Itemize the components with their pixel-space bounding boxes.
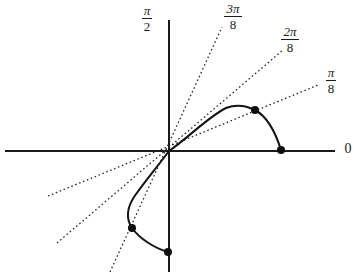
fraction-pi-over-8: π 8: [326, 66, 337, 95]
ray-label-2pi-over-8: 2π 8: [270, 25, 310, 54]
axis-label-pi-over-2: π 2: [130, 4, 164, 33]
fraction-3pi-over-8: 3π 8: [224, 2, 241, 31]
curve-point-lower-left: [128, 224, 136, 232]
curve-point-on-y-axis: [164, 248, 172, 256]
fraction-denominator: 8: [326, 81, 337, 95]
polar-angle-figure: π 2 3π 8 2π 8 π 8 0: [0, 0, 357, 272]
curve-point-upper-right: [251, 106, 259, 114]
fraction-denominator: 2: [142, 19, 153, 33]
axis-label-zero: 0: [341, 142, 355, 156]
ray-label-3pi-over-8: 3π 8: [213, 2, 253, 31]
fraction-numerator: 2π: [281, 25, 298, 40]
fraction-numerator: π: [326, 66, 337, 81]
solid-curve-upper-branch: [169, 106, 281, 151]
fraction-denominator: 8: [224, 17, 241, 31]
fraction-numerator: π: [142, 4, 153, 19]
solid-curve-lower-branch: [128, 151, 169, 252]
ray-label-pi-over-8: π 8: [317, 66, 345, 95]
fraction-pi-over-2: π 2: [142, 4, 153, 33]
fraction-numerator: 3π: [224, 2, 241, 17]
fraction-2pi-over-8: 2π 8: [281, 25, 298, 54]
fraction-denominator: 8: [281, 40, 298, 54]
curve-point-on-x-axis: [277, 146, 285, 154]
